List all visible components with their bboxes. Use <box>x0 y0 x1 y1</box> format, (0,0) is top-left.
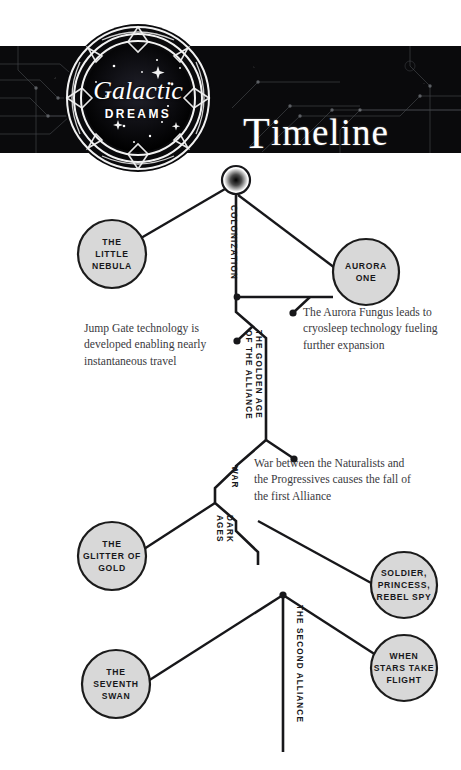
node-seventh-swan[interactable]: THE SEVENTH SWAN <box>82 650 150 718</box>
node-when-stars-line3: FLIGHT <box>386 675 421 685</box>
node-glitter-of-gold-line1: THE <box>102 539 121 549</box>
node-seventh-swan-line1: THE <box>106 667 125 677</box>
era-golden-age-line1: THE GOLDEN AGE <box>254 330 263 419</box>
node-soldier-princess-line1: SOLDIER, <box>381 568 427 578</box>
node-aurora-one[interactable]: AURORA ONE <box>333 239 399 305</box>
era-label-golden-age: THE GOLDEN AGE OF THE ALLIANCE <box>244 330 263 420</box>
era-war-text: WAR <box>230 466 239 488</box>
node-glitter-of-gold-line3: GOLD <box>98 563 126 573</box>
era-label-colonization: COLONIZATION <box>229 205 238 280</box>
node-glitter-of-gold[interactable]: THE GLITTER OF GOLD <box>78 522 146 590</box>
node-little-nebula-line1: THE <box>102 237 121 247</box>
era-golden-age-line2: OF THE ALLIANCE <box>244 330 253 420</box>
node-aurora-one-line2: ONE <box>356 273 377 283</box>
era-label-second-alliance: THE SECOND ALLIANCE <box>295 605 304 723</box>
connector-little-nebula <box>141 189 225 238</box>
era-dark-ages-line2: AGES <box>215 515 224 543</box>
node-soldier-princess-line2: PRINCESS, <box>378 580 431 590</box>
node-little-nebula-line2: LITTLE <box>95 249 128 259</box>
node-seventh-swan-line2: SEVENTH <box>93 679 139 689</box>
spine-junction-dot-second-alliance <box>279 591 286 598</box>
node-soldier-princess-rebel-spy[interactable]: SOLDIER, PRINCESS, REBEL SPY <box>371 552 437 618</box>
node-aurora-one-line1: AURORA <box>345 261 387 271</box>
annotation-aurora-fungus: The Aurora Fungus leads to cryosleep tec… <box>303 305 455 354</box>
node-soldier-princess-line3: REBEL SPY <box>377 592 432 602</box>
connector-glitter-of-gold <box>144 503 215 549</box>
connector-soldier-princess <box>258 521 373 584</box>
node-when-stars-line1: WHEN <box>389 651 418 661</box>
era-second-alliance-text: THE SECOND ALLIANCE <box>295 605 304 723</box>
node-when-stars-line2: STARS TAKE <box>374 663 435 673</box>
node-seventh-swan-line3: SWAN <box>102 691 131 701</box>
annotation-first-war: War between the Naturalists and the Prog… <box>254 456 414 505</box>
spine-junction-dot-colonization <box>234 294 241 301</box>
era-dark-ages-line1: DARK <box>225 515 234 543</box>
connector-seventh-swan <box>148 595 283 681</box>
node-when-stars-take-flight[interactable]: WHEN STARS TAKE FLIGHT <box>371 635 437 701</box>
timeline-diagram: THE LITTLE NEBULA AURORA ONE THE GLITTER… <box>0 0 461 770</box>
connector-aurora-one-upper <box>238 195 335 268</box>
era-label-war: WAR <box>230 466 239 488</box>
node-glitter-of-gold-line2: GLITTER OF <box>83 551 141 561</box>
era-colonization-text: COLONIZATION <box>229 205 238 280</box>
node-little-nebula[interactable]: THE LITTLE NEBULA <box>78 220 146 288</box>
era-label-dark-ages: DARK AGES <box>215 515 234 543</box>
node-little-nebula-line3: NEBULA <box>92 261 132 271</box>
timeline-origin-node <box>222 166 250 194</box>
annotation-jump-gate: Jump Gate technology is developed enabli… <box>84 321 236 370</box>
